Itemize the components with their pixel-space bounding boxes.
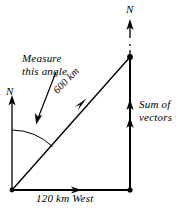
sum-line-2: vectors [139, 111, 172, 123]
vertex-bottom-right [127, 187, 132, 192]
west-component-label: 120 km West [36, 192, 93, 205]
sum-of-vectors-line [126, 57, 133, 190]
north-reference-left-line [8, 95, 15, 190]
callout-pointer-arrow [35, 72, 56, 125]
sum-of-vectors-label: Sum ofvectors [139, 98, 172, 123]
sum-line-1: Sum of [139, 98, 170, 110]
north-left-label: N [6, 85, 13, 98]
measure-this-angle-label: Measurethis angle [22, 52, 67, 77]
measure-line-2: this angle [22, 65, 67, 77]
north-reference-top-line [126, 19, 133, 55]
north-top-label: N [126, 3, 133, 16]
vertex-origin [10, 188, 15, 193]
vector-diagram: Measurethis angle N N Sum ofvectors 600 … [0, 0, 183, 211]
vertex-top [127, 54, 133, 60]
angle-arc [12, 130, 53, 147]
measure-line-1: Measure [22, 52, 61, 64]
